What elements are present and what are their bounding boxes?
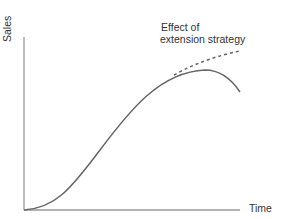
y-axis-label: Sales [1,16,13,42]
annotation-line-2: extension strategy [160,33,245,45]
sales-curve [24,70,240,210]
extension-strategy-curve [174,51,240,75]
x-axis-label: Time [249,202,272,214]
annotation-line-1: Effect of [161,21,199,33]
